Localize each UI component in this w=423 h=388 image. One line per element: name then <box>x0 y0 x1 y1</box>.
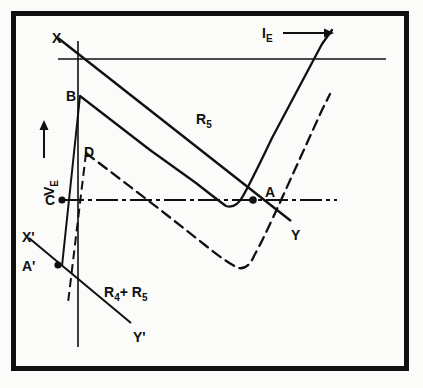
axis-label-ve-sub: E <box>49 180 60 187</box>
point-marker-c <box>58 196 65 203</box>
curve-label-r5-base: R <box>196 111 206 127</box>
point-label-d: D <box>84 145 94 159</box>
axis-label-ve: VE <box>42 180 60 196</box>
point-marker-aprime <box>54 261 61 268</box>
curve-label-r5: R5 <box>196 112 212 130</box>
figure-frame <box>14 14 407 369</box>
point-label-y-prime: Y' <box>133 330 146 344</box>
load-line-xpyp <box>29 238 131 323</box>
axis-label-ie: IE <box>262 26 273 44</box>
point-label-x: X <box>52 31 61 45</box>
point-label-a: A <box>265 185 275 199</box>
figure-svg <box>0 0 423 388</box>
ve-arrow-icon <box>40 120 49 158</box>
ie-arrow-icon <box>283 29 334 38</box>
curve-label-r4-base: R <box>104 284 114 300</box>
curve-label-plus: + R <box>120 284 142 300</box>
point-marker-a <box>249 196 257 204</box>
curve-label-r4-plus-r5: R4+ R5 <box>104 285 147 303</box>
load-line-xy <box>58 38 291 221</box>
curve-label-r5-sub: 5 <box>206 119 212 130</box>
point-label-b: B <box>66 89 76 103</box>
point-label-x-prime: X' <box>22 230 35 244</box>
axis-label-ve-base: V <box>41 187 57 196</box>
figure-root: X B D C A Y X' A' Y' IE VE R5 R4+ R5 <box>0 0 423 388</box>
curve-label-r5b-sub: 5 <box>142 292 148 303</box>
axis-label-ie-sub: E <box>266 33 273 44</box>
point-label-y: Y <box>291 228 300 242</box>
point-label-a-prime: A' <box>22 259 35 273</box>
